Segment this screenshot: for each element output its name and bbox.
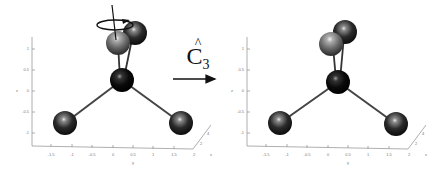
y-tick-label: -1 <box>70 152 74 157</box>
z-tick-label: 1 <box>242 46 245 51</box>
y-tick-label: -1.5 <box>263 152 271 157</box>
y-tick-label: 0 <box>327 152 330 157</box>
y-axis-label: y <box>132 160 134 165</box>
hat-symbol: ^ <box>188 32 208 56</box>
y-axis-label: y <box>347 160 349 165</box>
z-tick-label: -1 <box>25 130 29 135</box>
outer-atom-left <box>268 111 292 135</box>
y-tick-label: 2 <box>193 152 196 157</box>
central-atom <box>326 70 350 94</box>
y-tick-label: 1.5 <box>171 152 177 157</box>
figure-canvas: 1 0.5 0 -0.5 -1 z -1.5 -1 -0.5 0 0.5 <box>0 0 444 180</box>
y-tick-label: 0 <box>112 152 115 157</box>
x-tick-label: 4 <box>422 131 425 136</box>
y-tick-label: 1 <box>152 152 155 157</box>
y-ticks: -1.5 -1 -0.5 0 0.5 1 1.5 2 y <box>48 144 196 165</box>
y-tick-label: 2 <box>408 152 411 157</box>
x-tick-label: 4 <box>207 131 210 136</box>
outer-atom-left <box>53 111 77 135</box>
z-tick-label: -1 <box>240 130 244 135</box>
x-axis-label: x <box>210 152 212 157</box>
y-axis-line <box>32 146 193 149</box>
x-ticks: 2 4 x <box>200 131 212 157</box>
y-tick-label: -0.5 <box>304 152 312 157</box>
z-tick-label: -0.5 <box>22 109 30 114</box>
outer-atom-right <box>384 112 408 136</box>
molecule-before <box>53 5 193 135</box>
outer-atom-front <box>319 32 343 56</box>
x-tick-label: 2 <box>200 141 203 146</box>
x-tick-label: 2 <box>415 141 418 146</box>
z-tick-label: 0.5 <box>238 67 244 72</box>
outer-atom-front <box>106 31 130 55</box>
panel-before: 1 0.5 0 -0.5 -1 z -1.5 -1 -0.5 0 0.5 <box>16 5 212 165</box>
y-tick-label: 0.5 <box>345 152 351 157</box>
z-axis-label: z <box>231 88 233 93</box>
y-axis-line <box>247 146 408 149</box>
z-tick-label: 0 <box>27 88 30 93</box>
y-tick-label: 1 <box>367 152 370 157</box>
z-axis-label: z <box>16 88 18 93</box>
z-tick-label: -0.5 <box>237 109 245 114</box>
y-ticks: -1.5 -1 -0.5 0 0.5 1 1.5 2 y <box>263 144 411 165</box>
panel-after: 1 0.5 0 -0.5 -1 z -1.5 -1 -0.5 0 0.5 <box>231 20 427 165</box>
central-atom <box>110 68 134 92</box>
axes-after: 1 0.5 0 -0.5 -1 z -1.5 -1 -0.5 0 0.5 <box>231 37 427 165</box>
y-tick-label: -1 <box>285 152 289 157</box>
z-tick-label: 0.5 <box>23 67 29 72</box>
y-tick-label: 0.5 <box>130 152 136 157</box>
x-axis-label: x <box>425 152 427 157</box>
molecule-after <box>268 20 408 136</box>
operator-subscript: 3 <box>203 57 210 72</box>
z-tick-label: 0 <box>242 88 245 93</box>
operator-label: ^C3 <box>180 44 216 77</box>
y-tick-label: 1.5 <box>386 152 392 157</box>
x-ticks: 2 4 x <box>415 131 427 157</box>
outer-atom-right <box>169 111 193 135</box>
y-tick-label: -1.5 <box>48 152 56 157</box>
z-tick-label: 1 <box>27 46 30 51</box>
y-tick-label: -0.5 <box>89 152 97 157</box>
